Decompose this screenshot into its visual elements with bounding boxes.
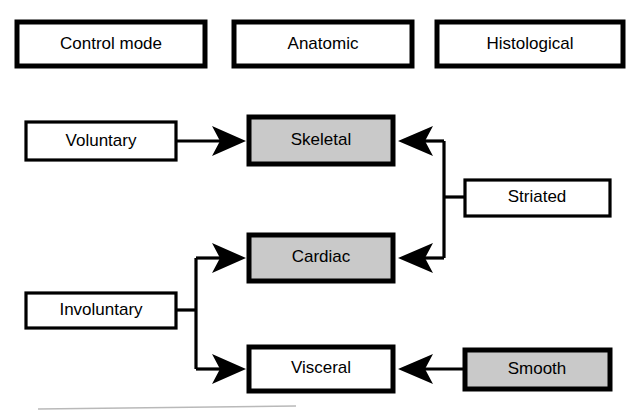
edge-smooth-to-visceral [398, 354, 464, 384]
header-label-histological: Histological [487, 34, 574, 53]
node-involuntary[interactable]: Involuntary [26, 293, 176, 328]
header-box-control-mode: Control mode [17, 22, 205, 66]
header-box-histological: Histological [437, 22, 623, 66]
header-row: Control mode Anatomic Histological [17, 22, 623, 66]
node-smooth[interactable]: Smooth [465, 350, 610, 389]
diagram-canvas: Control mode Anatomic Histological [0, 0, 632, 418]
node-layer: Voluntary Skeletal Striated Cardiac Invo… [26, 117, 610, 391]
node-smooth-label: Smooth [508, 359, 567, 378]
edge-voluntary-to-skeletal [176, 126, 246, 156]
node-involuntary-label: Involuntary [59, 300, 143, 319]
header-label-anatomic: Anatomic [288, 34, 359, 53]
node-voluntary-label: Voluntary [66, 131, 137, 150]
edge-striated-bracket [398, 126, 464, 273]
node-cardiac-label: Cardiac [292, 247, 351, 266]
header-box-anatomic: Anatomic [234, 22, 412, 66]
flow-diagram: Control mode Anatomic Histological [0, 0, 632, 418]
node-skeletal[interactable]: Skeletal [249, 117, 393, 164]
node-striated[interactable]: Striated [465, 180, 610, 216]
node-cardiac[interactable]: Cardiac [249, 235, 393, 281]
node-skeletal-label: Skeletal [291, 130, 351, 149]
header-label-control-mode: Control mode [60, 34, 162, 53]
scan-artifact-line [38, 406, 296, 409]
node-visceral-label: Visceral [291, 358, 351, 377]
edge-involuntary-bracket [176, 243, 246, 384]
node-voluntary[interactable]: Voluntary [26, 122, 176, 160]
node-striated-label: Striated [508, 187, 567, 206]
node-visceral[interactable]: Visceral [249, 347, 393, 391]
